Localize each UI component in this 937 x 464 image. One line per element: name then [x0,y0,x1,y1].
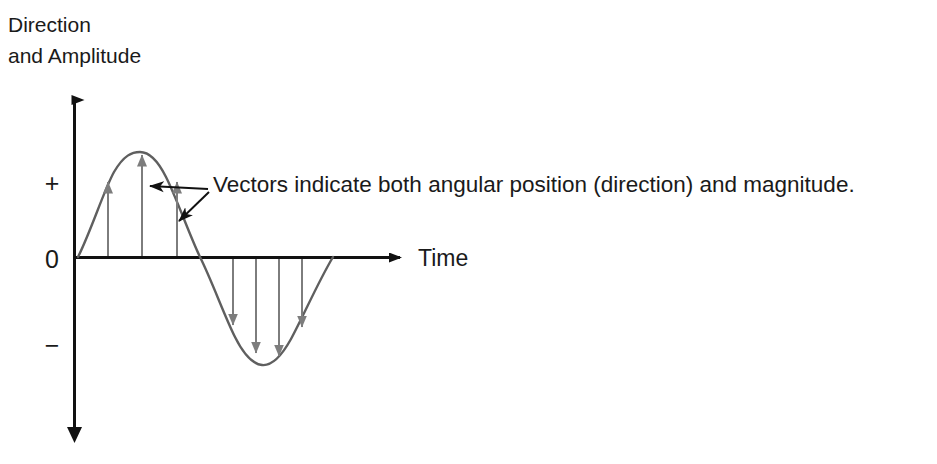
leader-line-diagonal [179,192,209,221]
waveform-diagram: Direction and Amplitude + 0 − Time [0,0,937,464]
y-axis-tick-plus: + [45,169,60,197]
vector-group-positive [108,155,177,256]
annotation-label: Vectors indicate both angular position (… [213,172,855,197]
y-axis-title-line1: Direction [8,13,91,36]
annotation-leader-group [150,186,209,221]
diagram-canvas: Direction and Amplitude + 0 − Time [0,0,937,464]
vector-group-negative [233,259,302,356]
y-axis-tick-zero: 0 [45,245,59,273]
x-axis-label: Time [418,245,468,271]
leader-line-horizontal [150,186,208,189]
y-axis-tick-minus: − [45,331,60,359]
y-axis-bottom-arrowhead [67,427,82,443]
y-axis-title-line2: and Amplitude [8,44,141,67]
